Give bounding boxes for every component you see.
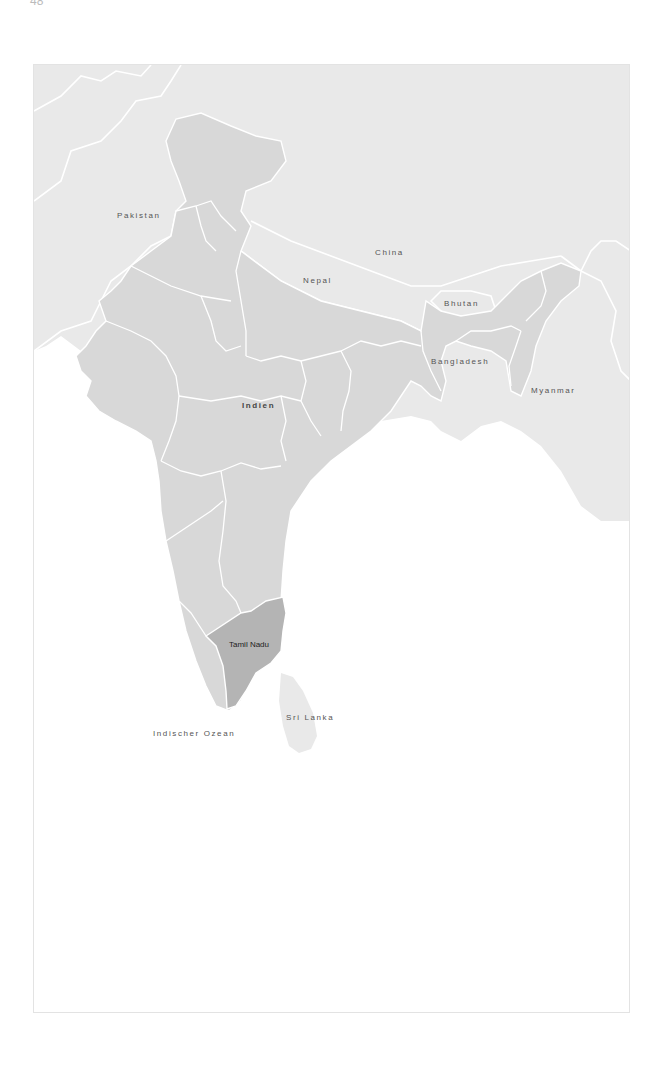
label-bangladesh: Bangladesh xyxy=(431,357,489,366)
label-bhutan: Bhutan xyxy=(444,299,479,308)
label-china: China xyxy=(375,248,404,257)
label-pakistan: Pakistan xyxy=(117,211,160,220)
label-sri-lanka: Sri Lanka xyxy=(286,713,334,722)
label-india: Indien xyxy=(242,401,275,410)
map-frame: Pakistan China Nepal Bhutan Bangladesh M… xyxy=(33,64,630,1013)
page-number: 48 xyxy=(30,0,43,8)
label-tamil-nadu: Tamil Nadu xyxy=(229,640,269,649)
label-indian-ocean: Indischer Ozean xyxy=(153,729,235,738)
india-map xyxy=(34,65,630,1013)
label-myanmar: Myanmar xyxy=(531,386,576,395)
label-nepal: Nepal xyxy=(303,276,332,285)
